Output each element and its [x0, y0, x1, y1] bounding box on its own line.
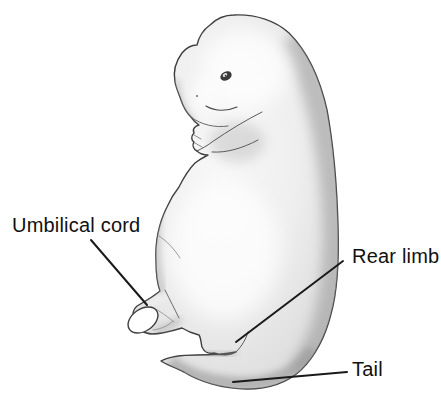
- label-tail: Tail: [352, 357, 383, 381]
- umbilical-cord-leader-line: [91, 240, 147, 305]
- embryo-illustration: [0, 0, 441, 400]
- embryo-diagram: Umbilical cord Rear limb Tail: [0, 0, 441, 400]
- label-umbilical-cord: Umbilical cord: [12, 213, 140, 237]
- label-rear-limb: Rear limb: [352, 244, 439, 268]
- embryo-body: [123, 15, 338, 389]
- nostril: [196, 95, 198, 97]
